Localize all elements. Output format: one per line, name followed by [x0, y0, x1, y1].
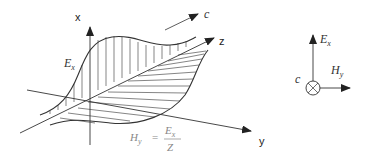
impedance-formula: Hy = Ex Z [129, 124, 181, 153]
cross-h-label: Hy [330, 63, 344, 79]
e-hatching [50, 36, 186, 114]
svg-text:Ex: Ex [164, 124, 176, 139]
cross-c-label: c [295, 72, 301, 86]
y-axis-label: y [259, 135, 265, 147]
x-axis-label: x [75, 11, 81, 23]
propagation-label: c [204, 7, 210, 21]
z-axis-label: z [219, 35, 225, 47]
electric-field-label: Ex [63, 56, 75, 72]
cross-section-diagram: Ex Hy c [295, 32, 350, 95]
svg-text:Z: Z [167, 141, 174, 153]
e-wave-curve [40, 37, 196, 115]
svg-text:=: = [152, 131, 158, 143]
em-wave-diagram: x z y c Ex Hy = Ex Z Ex Hy c [0, 0, 369, 160]
svg-text:Hy: Hy [129, 131, 142, 146]
cross-e-label: Ex [319, 32, 331, 48]
y-axis [27, 90, 251, 131]
propagation-arrow [165, 14, 198, 30]
electric-field-wave [40, 36, 196, 115]
